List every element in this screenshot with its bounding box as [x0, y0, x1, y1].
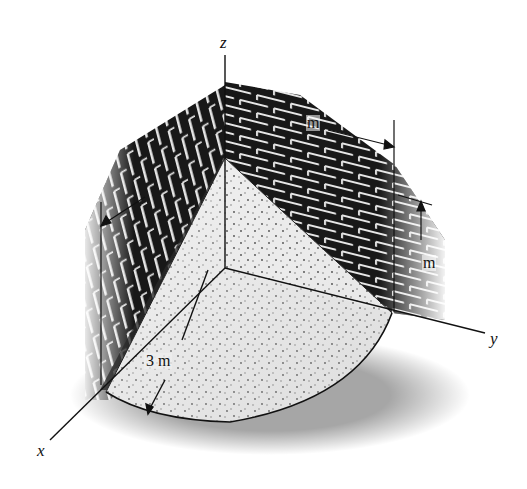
x-axis-label: x [37, 442, 45, 459]
top-length-label: m [306, 115, 320, 131]
right-height-label: m [422, 255, 436, 271]
diagram-canvas [0, 0, 527, 489]
z-axis-label: z [220, 34, 227, 51]
diagram-figure: z x y 3 m m m [0, 0, 527, 489]
radius-label: 3 m [144, 353, 172, 369]
y-axis-label: y [490, 330, 498, 347]
